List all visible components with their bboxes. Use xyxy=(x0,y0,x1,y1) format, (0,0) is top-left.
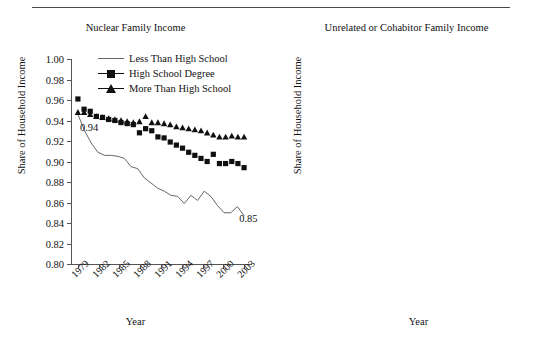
series-marker-square xyxy=(205,159,210,164)
series-marker-triangle xyxy=(216,134,222,140)
series-marker-square xyxy=(192,153,197,158)
series-marker-square xyxy=(161,135,166,140)
y-tick-mark xyxy=(67,203,71,204)
series-marker-square xyxy=(174,143,179,148)
x-axis-label-nuclear: Year xyxy=(0,316,271,327)
legend-item-triangle[interactable]: More Than High School xyxy=(98,81,231,96)
chart-panel-unrelated: Unrelated or Cohabitor Family Income Sha… xyxy=(271,0,542,352)
series-marker-triangle xyxy=(235,134,241,140)
series-marker-square xyxy=(75,96,80,101)
y-tick-mark xyxy=(67,80,71,81)
y-tick-label: 0.90 xyxy=(46,156,64,167)
series-marker-triangle xyxy=(185,126,191,132)
line-marker-icon xyxy=(98,53,124,65)
y-axis-label-unrelated: Share of Household Income xyxy=(292,46,303,186)
y-tick-label: 0.94 xyxy=(46,115,64,126)
square-marker-icon xyxy=(98,68,124,80)
series-marker-triangle xyxy=(204,130,210,136)
series-marker-triangle xyxy=(198,128,204,134)
y-tick-mark xyxy=(67,100,71,101)
y-tick-label: 0.98 xyxy=(46,74,64,85)
series-marker-triangle xyxy=(229,133,235,139)
legend-item-label: High School Degree xyxy=(129,68,215,79)
series-marker-triangle xyxy=(167,121,173,127)
y-tick-label: 0.86 xyxy=(46,197,64,208)
data-annotation: 0.85 xyxy=(239,213,257,224)
series-marker-triangle xyxy=(149,119,155,125)
y-tick-label: 0.82 xyxy=(46,238,64,249)
chart-title-nuclear: Nuclear Family Income xyxy=(0,22,271,33)
legend-nuclear: Less Than High SchoolHigh School DegreeM… xyxy=(98,51,231,96)
y-tick-label: 0.84 xyxy=(46,218,64,229)
series-marker-triangle xyxy=(241,134,247,140)
series-marker-square xyxy=(180,146,185,151)
data-annotation: 0.94 xyxy=(80,122,98,133)
series-marker-square xyxy=(155,134,160,139)
y-axis-label-nuclear: Share of Household Income xyxy=(16,46,27,186)
y-tick-label: 0.92 xyxy=(46,136,64,147)
series-marker-square xyxy=(149,128,154,133)
series-marker-square xyxy=(211,152,216,157)
series-marker-triangle xyxy=(161,120,167,126)
series-marker-triangle xyxy=(155,119,161,125)
series-marker-square xyxy=(137,130,142,135)
series-marker-triangle xyxy=(210,132,216,138)
y-tick-mark xyxy=(67,162,71,163)
legend-item-label: Less Than High School xyxy=(129,53,228,64)
series-marker-square xyxy=(217,161,222,166)
series-marker-square xyxy=(223,161,228,166)
y-tick-label: 0.88 xyxy=(46,177,64,188)
y-tick-mark xyxy=(67,223,71,224)
legend-item-label: More Than High School xyxy=(129,83,231,94)
series-marker-triangle xyxy=(142,113,148,119)
y-tick-mark xyxy=(67,264,71,265)
series-marker-square xyxy=(241,165,246,170)
series-marker-triangle xyxy=(75,109,81,115)
chart-title-unrelated: Unrelated or Cohabitor Family Income xyxy=(271,22,542,33)
series-marker-square xyxy=(198,156,203,161)
legend-item-square[interactable]: High School Degree xyxy=(98,66,231,81)
series-marker-triangle xyxy=(179,124,185,130)
series-marker-square xyxy=(235,161,240,166)
y-tick-mark xyxy=(67,59,71,60)
legend-item-line[interactable]: Less Than High School xyxy=(98,51,231,66)
y-tick-mark xyxy=(67,244,71,245)
series-marker-square xyxy=(186,150,191,155)
series-marker-square xyxy=(143,126,148,131)
y-tick-label: 0.80 xyxy=(46,259,64,270)
y-tick-mark xyxy=(67,121,71,122)
x-axis-label-unrelated: Year xyxy=(283,316,542,327)
chart-panel-nuclear: Nuclear Family Income Share of Household… xyxy=(0,0,271,352)
y-tick-label: 0.96 xyxy=(46,95,64,106)
triangle-marker-icon xyxy=(98,83,124,95)
y-tick-label: 1.00 xyxy=(46,54,64,65)
series-marker-triangle xyxy=(136,118,142,124)
series-marker-square xyxy=(229,159,234,164)
series-marker-triangle xyxy=(222,134,228,140)
series-marker-triangle xyxy=(173,123,179,129)
y-tick-mark xyxy=(67,182,71,183)
series-marker-triangle xyxy=(192,127,198,133)
y-tick-mark xyxy=(67,141,71,142)
series-marker-square xyxy=(168,139,173,144)
